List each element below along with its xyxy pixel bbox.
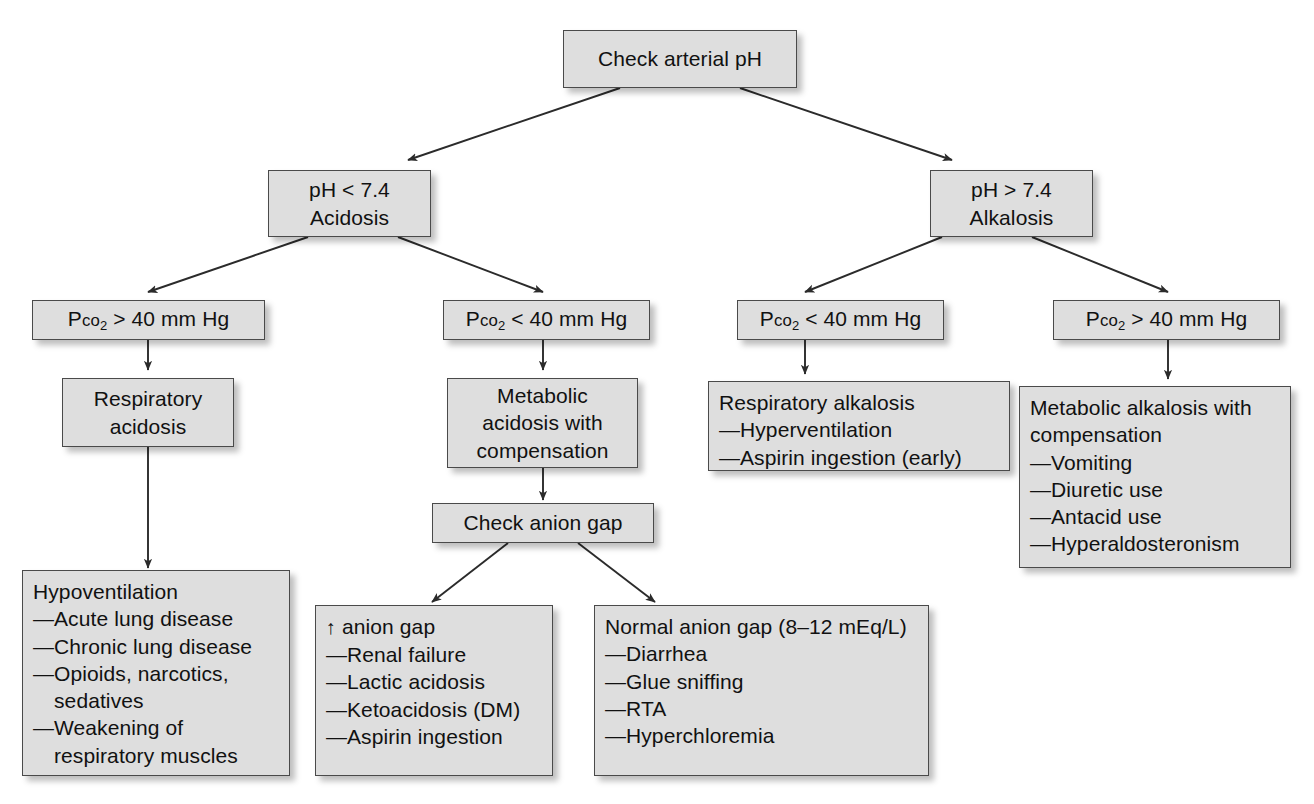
node-pco2-high-right[interactable]: Pco2 > 40 mm Hg — [1053, 300, 1280, 340]
edge-acidosis-to-pco2lo — [398, 237, 543, 292]
dash-glyph: — — [605, 722, 626, 749]
list-item: —Opioids, narcotics, sedatives — [33, 660, 279, 715]
node-respiratory-alkalosis-items: —Hyperventilation —Aspirin ingestion (ea… — [719, 416, 999, 471]
node-pco2-low-mid-rest: < 40 mm Hg — [505, 307, 627, 330]
list-item: —Hyperchloremia — [605, 722, 918, 749]
node-pco2-high-left[interactable]: Pco2 > 40 mm Hg — [32, 300, 265, 340]
dash-glyph: — — [326, 723, 347, 750]
node-hypoventilation-items: —Acute lung disease —Chronic lung diseas… — [33, 605, 279, 769]
node-acidosis-line-0: pH < 7.4 — [309, 176, 390, 203]
list-item: —Chronic lung disease — [33, 633, 279, 660]
node-metabolic-acidosis-line-0: Metabolic — [497, 382, 588, 409]
node-high-anion-gap-header: ↑ anion gap — [326, 613, 542, 641]
list-item-label: Diarrhea — [626, 642, 707, 665]
up-arrow-icon: ↑ — [326, 616, 336, 638]
dash-glyph: — — [719, 416, 740, 443]
edge-alkalosis-to-pco2lo — [805, 237, 942, 292]
node-acidosis-line-1: Acidosis — [310, 204, 389, 231]
list-item: —Acute lung disease — [33, 605, 279, 632]
list-item: —Weakening of respiratory muscles — [33, 714, 279, 769]
node-respiratory-acidosis[interactable]: Respiratory acidosis — [62, 378, 234, 447]
dash-glyph: — — [326, 641, 347, 668]
node-high-anion-gap[interactable]: ↑ anion gap —Renal failure —Lactic acido… — [315, 605, 553, 776]
node-metabolic-alkalosis-items: —Vomiting —Diuretic use —Antacid use —Hy… — [1030, 449, 1280, 558]
edge-alkalosis-to-pco2hi — [1032, 237, 1168, 292]
list-item: —Glue sniffing — [605, 668, 918, 695]
node-respiratory-alkalosis-header: Respiratory alkalosis — [719, 389, 999, 416]
node-pco2-high-left-sc: co — [82, 311, 100, 330]
node-pco2-low-mid-sc: co — [480, 311, 498, 330]
node-normal-anion-gap-items: —Diarrhea —Glue sniffing —RTA —Hyperchlo… — [605, 640, 918, 749]
edge-root-to-alkalosis — [740, 88, 952, 160]
dash-glyph: — — [1030, 449, 1051, 476]
edge-aniongap-to-normal — [578, 543, 655, 602]
node-pco2-low-right-rest: < 40 mm Hg — [799, 307, 921, 330]
list-item-label: Hyperchloremia — [626, 724, 774, 747]
node-alkalosis[interactable]: pH > 7.4 Alkalosis — [930, 170, 1093, 237]
dash-glyph: — — [719, 444, 740, 471]
list-item-label: Acute lung disease — [54, 607, 233, 630]
list-item-label: Aspirin ingestion — [347, 725, 503, 748]
node-metabolic-acidosis[interactable]: Metabolic acidosis with compensation — [447, 378, 638, 468]
list-item: —Hyperventilation — [719, 416, 999, 443]
list-item-label: Hyperventilation — [740, 418, 892, 441]
dash-glyph: — — [326, 696, 347, 723]
node-respiratory-acidosis-line-0: Respiratory — [94, 385, 202, 412]
node-check-arterial-ph-line-0: Check arterial pH — [598, 45, 762, 72]
dash-glyph: — — [33, 714, 54, 741]
node-acidosis[interactable]: pH < 7.4 Acidosis — [268, 170, 431, 237]
edge-root-to-acidosis — [408, 88, 620, 160]
list-item-label: Renal failure — [347, 643, 466, 666]
list-item-label: Opioids, narcotics, sedatives — [54, 662, 229, 712]
node-pco2-low-right-prefix: P — [760, 307, 774, 330]
node-pco2-high-left-rest: > 40 mm Hg — [107, 307, 229, 330]
node-pco2-high-right-rest: > 40 mm Hg — [1125, 307, 1247, 330]
node-normal-anion-gap-header: Normal anion gap (8–12 mEq/L) — [605, 613, 918, 640]
list-item-label: Ketoacidosis (DM) — [347, 698, 520, 721]
list-item: —Lactic acidosis — [326, 668, 542, 695]
dash-glyph: — — [33, 660, 54, 687]
node-metabolic-acidosis-line-2: compensation — [477, 437, 609, 464]
list-item-label: Hyperaldosteronism — [1051, 532, 1240, 555]
edge-aniongap-to-high — [432, 543, 508, 602]
node-hypoventilation[interactable]: Hypoventilation —Acute lung disease —Chr… — [22, 570, 290, 776]
node-alkalosis-line-1: Alkalosis — [970, 204, 1054, 231]
node-check-anion-gap[interactable]: Check anion gap — [432, 503, 654, 543]
list-item-label: Vomiting — [1051, 451, 1132, 474]
list-item-label: Chronic lung disease — [54, 635, 252, 658]
list-item-label: Aspirin ingestion (early) — [740, 446, 962, 469]
dash-glyph: — — [1030, 503, 1051, 530]
list-item-label: Glue sniffing — [626, 670, 744, 693]
list-item-label: Diuretic use — [1051, 478, 1163, 501]
node-pco2-high-right-sc: co — [1100, 311, 1118, 330]
node-metabolic-alkalosis[interactable]: Metabolic alkalosis with compensation —V… — [1019, 386, 1291, 568]
node-normal-anion-gap[interactable]: Normal anion gap (8–12 mEq/L) —Diarrhea … — [594, 605, 929, 776]
edge-acidosis-to-pco2hi — [148, 237, 308, 292]
dash-glyph: — — [33, 605, 54, 632]
node-pco2-low-mid[interactable]: Pco2 < 40 mm Hg — [443, 300, 650, 340]
dash-glyph: — — [1030, 530, 1051, 557]
list-item: —Aspirin ingestion — [326, 723, 542, 750]
dash-glyph: — — [326, 668, 347, 695]
list-item: —Aspirin ingestion (early) — [719, 444, 999, 471]
node-alkalosis-line-0: pH > 7.4 — [971, 176, 1052, 203]
node-metabolic-acidosis-line-1: acidosis with — [482, 409, 602, 436]
list-item-label: RTA — [626, 697, 666, 720]
list-item-label: Lactic acidosis — [347, 670, 485, 693]
node-respiratory-acidosis-line-1: acidosis — [110, 413, 187, 440]
list-item: —Vomiting — [1030, 449, 1280, 476]
dash-glyph: — — [605, 668, 626, 695]
dash-glyph: — — [605, 695, 626, 722]
dash-glyph: — — [33, 633, 54, 660]
node-pco2-low-mid-prefix: P — [466, 307, 480, 330]
list-item: —RTA — [605, 695, 918, 722]
dash-glyph: — — [605, 640, 626, 667]
node-respiratory-alkalosis[interactable]: Respiratory alkalosis —Hyperventilation … — [708, 381, 1010, 471]
node-check-arterial-ph[interactable]: Check arterial pH — [563, 30, 797, 88]
node-check-anion-gap-line-0: Check anion gap — [463, 509, 622, 536]
list-item: —Diuretic use — [1030, 476, 1280, 503]
node-pco2-low-right[interactable]: Pco2 < 40 mm Hg — [737, 300, 944, 340]
list-item-label: Antacid use — [1051, 505, 1162, 528]
node-pco2-high-left-prefix: P — [68, 307, 82, 330]
list-item-label: Weakening of respiratory muscles — [54, 716, 238, 766]
